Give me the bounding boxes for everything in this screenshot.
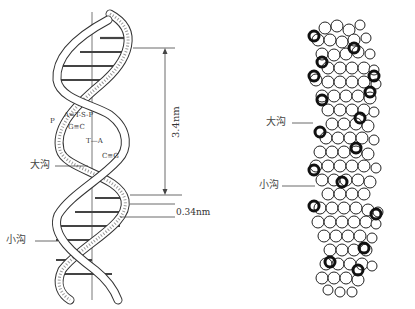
base-pair-spacing-label: 0.34nm — [176, 207, 210, 217]
minor-groove-label: 小沟 — [259, 180, 279, 190]
base-pair-ta: T—A — [86, 138, 103, 145]
ribbon-model-panel: A=T-S-P P G≡C T—A C≡G 大沟 小沟 3.4nm 0.34nm — [0, 0, 210, 309]
helix-pitch-label: 3.4nm — [170, 106, 181, 138]
base-pair-at: A=T-S-P — [64, 112, 93, 119]
base-pair-gc: G≡C — [68, 124, 85, 131]
major-groove-label: 大沟 — [266, 117, 286, 127]
base-pair-cg: C≡G — [102, 153, 119, 160]
minor-groove-label: 小沟 — [6, 235, 26, 245]
major-groove-label: 大沟 — [30, 160, 50, 170]
space-filling-helix-drawing — [210, 0, 415, 309]
phosphate-label: P — [50, 118, 55, 125]
space-filling-model-panel: 大沟 小沟 — [210, 0, 415, 309]
